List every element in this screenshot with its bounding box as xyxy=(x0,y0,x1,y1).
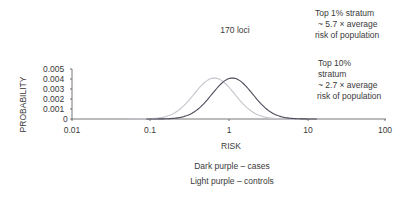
annotation-top10: Top 10% stratum ~ 2.7 × average risk of … xyxy=(318,58,381,102)
y-tick-label: 0.001 xyxy=(43,104,64,115)
annotation-line: ~ 5.7 × average xyxy=(315,19,379,30)
annotation-line: risk of population xyxy=(315,30,379,41)
x-tick-label: 0.1 xyxy=(144,125,156,136)
controls-curve xyxy=(128,78,299,119)
cases-curve xyxy=(146,78,317,119)
annotation-line: Top 10% xyxy=(318,58,381,69)
annotation-line: ~ 2.7 × average xyxy=(318,80,381,91)
annotation-line: Top 1% stratum xyxy=(315,8,379,19)
chart-title: 170 loci xyxy=(220,25,249,36)
legend-cases: Dark purple – cases xyxy=(194,161,270,172)
annotation-top1: Top 1% stratum ~ 5.7 × average risk of p… xyxy=(315,8,379,41)
x-tick-label: 10 xyxy=(303,125,312,136)
x-axis-title: RISK xyxy=(221,141,241,152)
x-tick-label: 0.01 xyxy=(64,125,81,136)
x-tick-label: 100 xyxy=(378,125,392,136)
x-tick-label: 1 xyxy=(227,125,232,136)
y-axis-title: PROBABILITY xyxy=(18,75,29,135)
annotation-line: risk of population xyxy=(317,91,381,102)
y-tick-label: 0 xyxy=(63,114,68,125)
legend-controls: Light purple – controls xyxy=(190,176,274,187)
annotation-line: stratum xyxy=(318,69,381,80)
